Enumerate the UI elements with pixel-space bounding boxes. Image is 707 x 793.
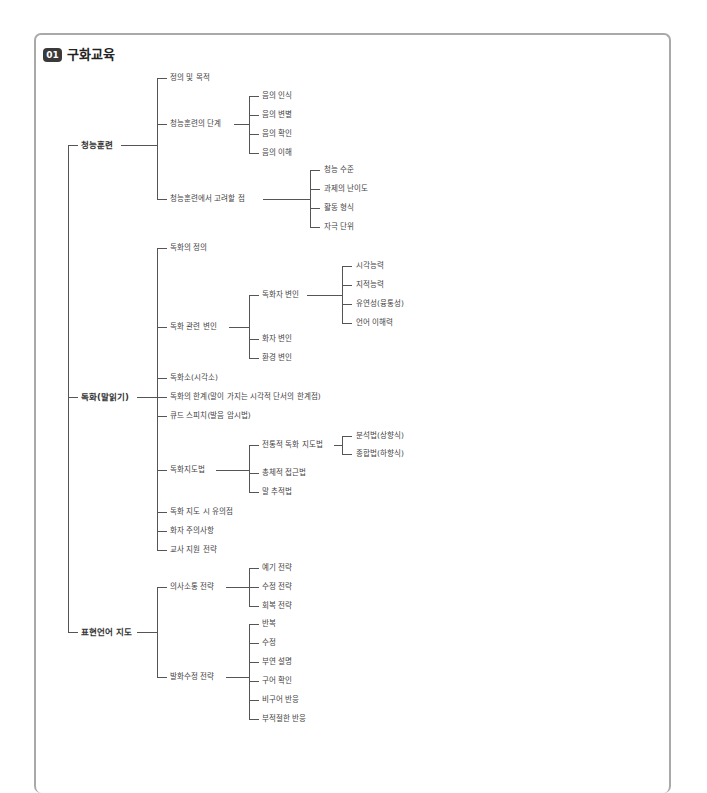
tree-line bbox=[342, 266, 343, 324]
node-sound-awareness: 음의 인식 bbox=[262, 91, 292, 101]
tree-line bbox=[310, 227, 320, 228]
node-intellectual-ability: 지적능력 bbox=[356, 280, 384, 290]
tree-line bbox=[157, 587, 158, 678]
tree-line bbox=[249, 700, 259, 701]
tree-line bbox=[342, 323, 352, 324]
tree-line bbox=[249, 624, 250, 720]
tree-line bbox=[249, 96, 250, 154]
node-cued-speech: 큐드 스피치(발음 암시법) bbox=[170, 411, 251, 421]
node-speechreading-limits: 독화의 한계(말이 가지는 시각적 단서의 한계점) bbox=[170, 392, 321, 402]
node-speechreading-definition: 독화의 정의 bbox=[170, 243, 207, 253]
tree-line bbox=[342, 304, 352, 305]
tree-line bbox=[249, 339, 259, 340]
tree-line bbox=[234, 124, 249, 125]
tree-line bbox=[157, 78, 158, 200]
node-expressive-language: 표현언어 지도 bbox=[81, 627, 132, 637]
tree-line bbox=[249, 445, 250, 493]
tree-line bbox=[249, 643, 259, 644]
node-repair-sub-strategy: 수정 전략 bbox=[262, 582, 292, 592]
node-speechreading: 독화(말읽기) bbox=[81, 392, 129, 402]
tree-line bbox=[157, 397, 167, 398]
node-speaker-variables: 화자 변인 bbox=[262, 334, 292, 344]
tree-line bbox=[310, 170, 311, 228]
node-verbal-confirmation: 구어 확인 bbox=[262, 676, 292, 686]
node-speaker-notes: 화자 주의사항 bbox=[170, 526, 214, 536]
node-synthetic-method: 종합법(하향식) bbox=[356, 449, 404, 459]
tree-line bbox=[334, 445, 342, 446]
tree-line bbox=[216, 470, 249, 471]
node-activity-format: 활동 형식 bbox=[324, 203, 354, 213]
tree-line bbox=[249, 492, 259, 493]
tree-line bbox=[249, 134, 259, 135]
node-repair-strategy: 발화수정 전략 bbox=[170, 672, 214, 682]
tree-line bbox=[249, 473, 259, 474]
node-sound-discrimination: 음의 변별 bbox=[262, 110, 292, 120]
tree-line bbox=[137, 397, 157, 398]
node-anticipatory-strategy: 예기 전략 bbox=[262, 563, 292, 573]
node-speech-tracking: 말 추적법 bbox=[262, 487, 292, 497]
tree-line bbox=[157, 248, 167, 249]
node-reader-variables: 독화자 변인 bbox=[262, 290, 299, 300]
tree-line bbox=[157, 78, 167, 79]
node-recovery-strategy: 회복 전략 bbox=[262, 601, 292, 611]
node-speechreading-variables: 독화 관련 변인 bbox=[170, 322, 217, 332]
tree-line bbox=[157, 124, 167, 125]
node-visemes: 독화소(시각소) bbox=[170, 373, 218, 383]
tree-line bbox=[157, 550, 167, 551]
node-speechreading-methods: 독화지도법 bbox=[170, 465, 205, 475]
tree-line bbox=[249, 358, 259, 359]
node-traditional-method: 전통적 독화 지도법 bbox=[262, 440, 323, 450]
tree-line bbox=[249, 295, 259, 296]
tree-line bbox=[157, 531, 167, 532]
tree-line bbox=[157, 677, 167, 678]
tree-line bbox=[249, 295, 250, 359]
node-auditory-training: 청능훈련 bbox=[81, 140, 113, 150]
node-training-considerations: 청능훈련에서 고려할 점 bbox=[170, 194, 245, 204]
tree-line bbox=[68, 632, 78, 633]
tree-line bbox=[157, 587, 167, 588]
tree-line bbox=[249, 662, 259, 663]
tree-line bbox=[249, 606, 259, 607]
tree-line bbox=[226, 587, 249, 588]
tree-line bbox=[263, 199, 310, 200]
node-environment-variables: 환경 변인 bbox=[262, 353, 292, 363]
node-sound-comprehension: 음의 이해 bbox=[262, 148, 292, 158]
tree-line bbox=[68, 397, 78, 398]
tree-line bbox=[157, 416, 167, 417]
node-revision: 수정 bbox=[262, 638, 276, 648]
node-speechreading-cautions: 독화 지도 시 유의점 bbox=[170, 507, 233, 517]
tree-line bbox=[157, 470, 167, 471]
tree-line bbox=[310, 208, 320, 209]
tree-line bbox=[342, 436, 343, 455]
node-teacher-support: 교사 지원 전략 bbox=[170, 545, 217, 555]
node-nonverbal-response: 비구어 반응 bbox=[262, 695, 299, 705]
tree-line bbox=[157, 248, 158, 551]
tree-line bbox=[342, 454, 352, 455]
node-stimulus-unit: 자극 단위 bbox=[324, 222, 354, 232]
tree-line bbox=[157, 378, 167, 379]
node-training-stages: 청능훈련의 단계 bbox=[170, 119, 221, 129]
node-language-comprehension: 언어 이해력 bbox=[356, 318, 393, 328]
tree-line bbox=[68, 145, 78, 146]
node-communication-strategy: 의사소통 전략 bbox=[170, 582, 214, 592]
tree-line bbox=[121, 145, 157, 146]
tree-line bbox=[310, 170, 320, 171]
tree-line bbox=[229, 327, 249, 328]
node-elaboration: 부연 설명 bbox=[262, 657, 292, 667]
tree-line bbox=[307, 295, 342, 296]
tree-line bbox=[249, 681, 259, 682]
tree-line bbox=[342, 436, 352, 437]
tree-line bbox=[157, 512, 167, 513]
tree-line bbox=[249, 153, 259, 154]
tree-line bbox=[249, 115, 259, 116]
tree-line bbox=[249, 568, 259, 569]
tree-line bbox=[137, 632, 157, 633]
tree-line bbox=[249, 624, 259, 625]
tree-line bbox=[249, 445, 259, 446]
tree-line bbox=[157, 327, 167, 328]
node-task-difficulty: 과제의 난이도 bbox=[324, 184, 368, 194]
tree-line bbox=[342, 266, 352, 267]
section-title: 구화교육 bbox=[67, 47, 115, 63]
node-sound-identification: 음의 확인 bbox=[262, 129, 292, 139]
section-number-badge: 01 bbox=[43, 48, 62, 62]
